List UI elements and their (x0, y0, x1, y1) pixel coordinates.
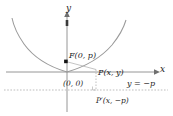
focus-label: F(0, p) (69, 52, 96, 60)
right-angle-mark (93, 87, 97, 91)
origin-label: (0, 0) (63, 80, 83, 88)
directrix-label: y = −p (127, 80, 155, 88)
y-axis-label: y (66, 4, 71, 13)
focus-point-marker (64, 60, 68, 64)
point-p-prime-label: P′(x, −p) (96, 97, 129, 105)
x-axis (6, 69, 160, 75)
y-axis-tick (66, 20, 69, 26)
focal-radius-segment (66, 62, 96, 70)
parabola-curve (12, 18, 126, 72)
point-p-label: P(x, y) (98, 69, 124, 77)
parabola-figure: y x F(0, p) P(x, y) (0, 0) y = −p P′(x, … (0, 0, 173, 116)
x-axis-label: x (160, 65, 165, 74)
